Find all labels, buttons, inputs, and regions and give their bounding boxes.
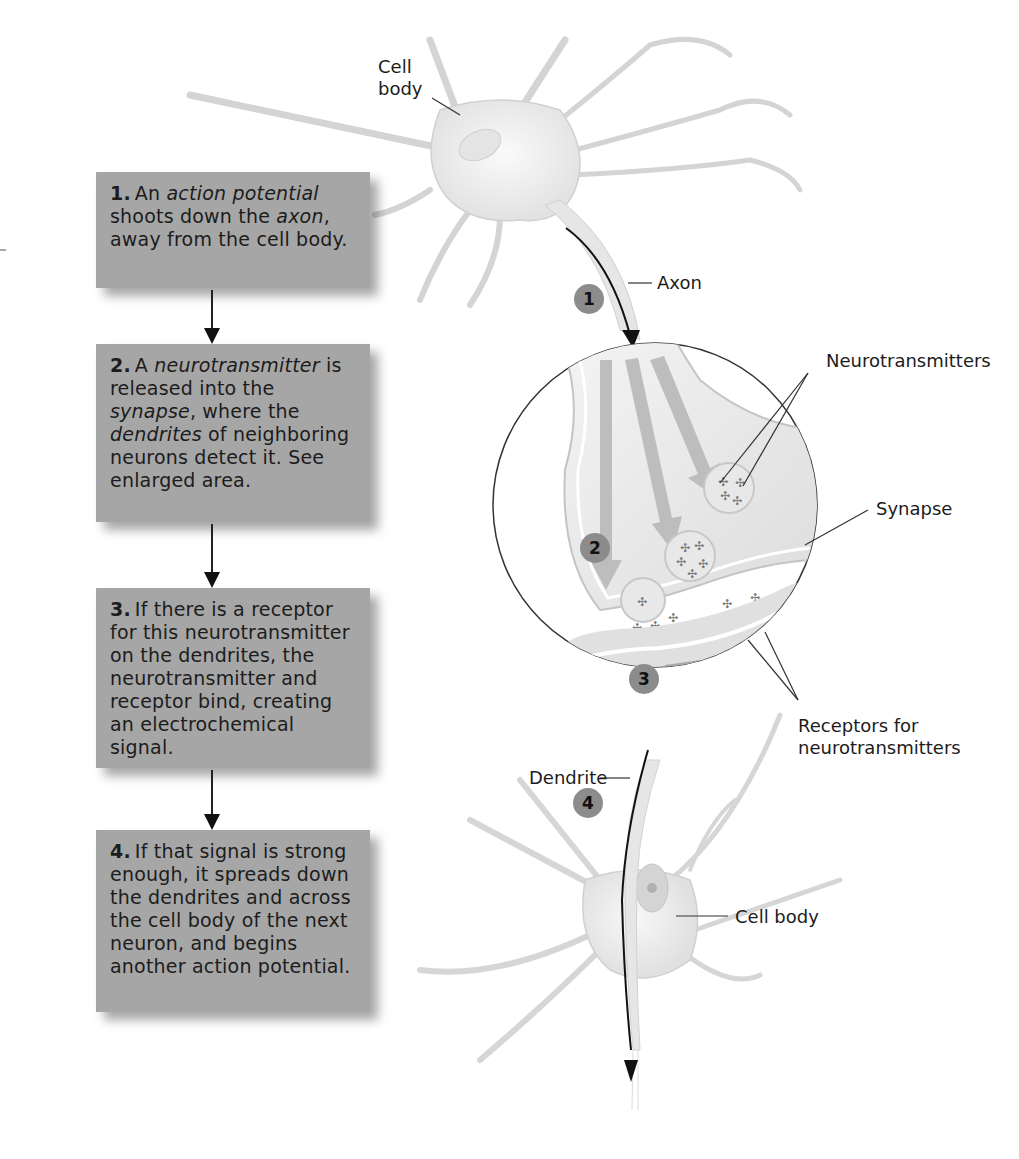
label-receptors: Receptors for neurotransmitters xyxy=(798,715,961,759)
svg-text:✣: ✣ xyxy=(718,475,728,489)
svg-text:✣: ✣ xyxy=(732,494,742,508)
svg-text:✣: ✣ xyxy=(735,476,745,490)
flow-arrow-3-4 xyxy=(211,770,213,828)
step-box-1: 1.An action potential shoots down the ax… xyxy=(96,172,370,288)
step-badge-2: 2 xyxy=(580,533,610,563)
flow-arrow-1-2 xyxy=(211,290,213,342)
step-box-3: 3.If there is a receptor for this neurot… xyxy=(96,588,370,768)
svg-text:✣: ✣ xyxy=(694,539,704,553)
step-box-4: 4.If that signal is strong enough, it sp… xyxy=(96,830,370,1012)
svg-text:✣: ✣ xyxy=(680,541,690,555)
step-number: 3. xyxy=(110,598,131,620)
label-synapse: Synapse xyxy=(876,498,952,520)
label-cell-body-top: Cell body xyxy=(378,56,423,100)
label-cell-body-bottom: Cell body xyxy=(735,906,819,928)
step-box-2: 2.A neurotransmitter is released into th… xyxy=(96,344,370,522)
step-badge-3: 3 xyxy=(629,664,659,694)
svg-text:✣: ✣ xyxy=(720,489,730,503)
svg-text:✣: ✣ xyxy=(687,567,697,581)
svg-text:✣: ✣ xyxy=(637,595,647,609)
step-badge-1: 1 xyxy=(574,284,604,314)
step-number: 2. xyxy=(110,354,131,376)
svg-text:✣: ✣ xyxy=(698,557,708,571)
label-neurotransmitters: Neurotransmitters xyxy=(826,350,991,372)
step-number: 4. xyxy=(110,840,131,862)
step-number: 1. xyxy=(110,182,131,204)
step-badge-4: 4 xyxy=(573,788,603,818)
svg-text:✣: ✣ xyxy=(676,555,686,569)
label-dendrite: Dendrite xyxy=(529,767,607,789)
label-axon: Axon xyxy=(657,272,702,294)
flow-arrow-2-3 xyxy=(211,524,213,586)
svg-text:✣: ✣ xyxy=(722,597,732,611)
